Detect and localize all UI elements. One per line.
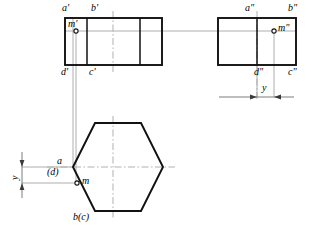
- label-c-double-prime: c": [288, 67, 297, 77]
- drawing-canvas: a' b' m' d' c' a" b" m" d" c" y a (d) m …: [0, 0, 311, 232]
- dimension-y-top-arrow-upper: [20, 160, 25, 167]
- label-a-top-view: a: [57, 156, 62, 166]
- label-y-side-view: y: [262, 83, 266, 93]
- label-a-double-prime: a": [245, 3, 254, 13]
- label-c-prime: c': [89, 67, 96, 77]
- label-d-double-prime: d": [254, 67, 263, 77]
- label-bc-top-view: b(c): [73, 212, 89, 222]
- label-m-top-view: m: [82, 176, 89, 186]
- label-b-prime: b': [91, 3, 98, 13]
- dimension-y-side-view: [219, 95, 294, 100]
- label-d-top-view: (d): [47, 167, 59, 177]
- front-view: [65, 18, 162, 65]
- projection-drawing: [0, 0, 311, 232]
- point-m-prime-marker: [74, 29, 78, 33]
- label-d-prime: d': [61, 67, 68, 77]
- front-view-outline: [65, 18, 162, 65]
- label-a-prime: a': [62, 3, 69, 13]
- point-m-marker: [75, 181, 79, 185]
- label-m-prime: m': [68, 19, 77, 29]
- dimension-y-top-view: [20, 152, 25, 198]
- dimension-y-side-arrow-left: [250, 95, 257, 100]
- point-m-double-prime-marker: [272, 29, 276, 33]
- label-b-double-prime: b": [288, 3, 297, 13]
- dimension-y-top-arrow-lower: [20, 183, 25, 190]
- label-m-double-prime: m": [278, 23, 289, 33]
- dimension-y-side-arrow-right: [274, 95, 281, 100]
- label-y-top-view: y: [10, 176, 20, 180]
